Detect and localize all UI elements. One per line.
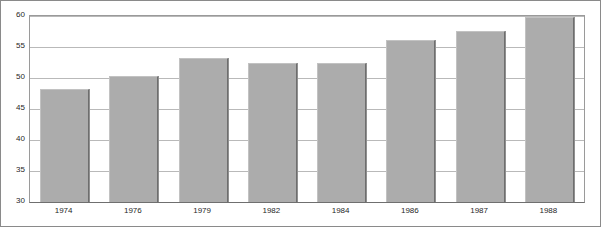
gridline	[30, 16, 584, 17]
bar	[248, 63, 297, 202]
y-axis-tick-label: 30	[1, 197, 25, 205]
clipped-header-text	[456, 0, 596, 5]
bar	[525, 17, 574, 202]
bar	[109, 76, 158, 202]
y-axis-tick-label: 45	[1, 104, 25, 112]
bar-chart-figure: 30354045505560 1974197619791982198419861…	[0, 0, 601, 227]
x-axis-tick-label: 1986	[375, 207, 444, 215]
bar	[40, 89, 89, 202]
x-axis-tick-label: 1984	[306, 207, 375, 215]
x-axis-tick-label: 1979	[168, 207, 237, 215]
plot-area	[29, 15, 585, 203]
bar	[317, 63, 366, 202]
bar	[456, 31, 505, 202]
x-axis-tick-label: 1976	[98, 207, 167, 215]
x-axis-tick-label: 1988	[514, 207, 583, 215]
y-axis-tick-label: 60	[1, 11, 25, 19]
x-axis-tick-label: 1982	[237, 207, 306, 215]
bar	[386, 40, 435, 202]
y-axis-tick-label: 35	[1, 166, 25, 174]
bar	[179, 58, 228, 202]
y-axis-tick-label: 40	[1, 135, 25, 143]
y-axis-tick-label: 50	[1, 73, 25, 81]
y-axis-tick-label: 55	[1, 42, 25, 50]
x-axis-tick-label: 1987	[445, 207, 514, 215]
x-axis-tick-label: 1974	[29, 207, 98, 215]
